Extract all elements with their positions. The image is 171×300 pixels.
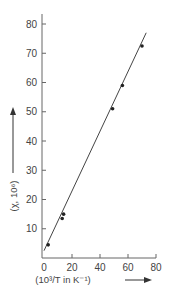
data-point bbox=[121, 84, 125, 88]
x-tick-label: 20 bbox=[66, 262, 78, 273]
y-axis-label: (χ, 10⁶) bbox=[8, 180, 19, 211]
fit-line bbox=[44, 33, 146, 251]
y-tick-label: 70 bbox=[26, 48, 38, 59]
x-tick-label: 40 bbox=[94, 262, 106, 273]
x-tick-label: 80 bbox=[150, 262, 162, 273]
data-point bbox=[62, 212, 66, 216]
up-arrow-icon bbox=[10, 107, 16, 115]
x-axis-label: (10³/T in K⁻¹) bbox=[35, 274, 91, 285]
y-tick-label: 40 bbox=[26, 136, 38, 147]
right-arrow-icon bbox=[144, 277, 152, 283]
fit-line-segment bbox=[44, 33, 146, 251]
data-point bbox=[140, 44, 144, 48]
x-ticks: 020406080 bbox=[41, 254, 162, 273]
x-tick-label: 60 bbox=[122, 262, 134, 273]
y-tick-label: 30 bbox=[26, 165, 38, 176]
y-tick-label: 10 bbox=[26, 223, 38, 234]
data-point bbox=[46, 243, 50, 247]
data-point bbox=[111, 107, 115, 111]
y-tick-label: 60 bbox=[26, 77, 38, 88]
data-point bbox=[60, 217, 64, 221]
y-ticks: 1020304050607080 bbox=[26, 19, 46, 235]
y-tick-label: 20 bbox=[26, 194, 38, 205]
axes bbox=[42, 14, 156, 258]
data-points bbox=[46, 44, 143, 247]
y-tick-label: 80 bbox=[26, 19, 38, 30]
y-axis-label-group: (χ, 10⁶) bbox=[8, 107, 19, 212]
x-tick-label: 0 bbox=[41, 262, 47, 273]
chart: 1020304050607080 020406080 (χ, 10⁶) (10³… bbox=[0, 0, 171, 300]
x-axis-label-group: (10³/T in K⁻¹) bbox=[35, 274, 152, 285]
y-tick-label: 50 bbox=[26, 106, 38, 117]
